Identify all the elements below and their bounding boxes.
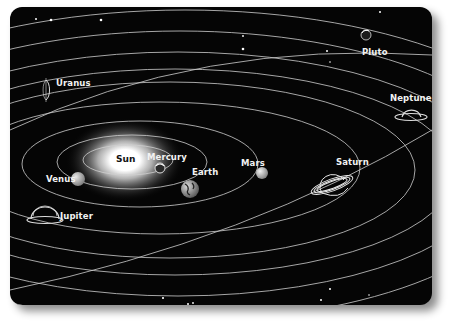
earth-icon (181, 180, 199, 198)
saturn-icon (309, 172, 354, 198)
venus-label: Venus (46, 174, 76, 184)
saturn-label: Saturn (336, 157, 369, 167)
mars-icon (256, 167, 268, 179)
earth-label: Earth (192, 167, 218, 177)
sun-label: Sun (116, 154, 136, 164)
mercury-icon (155, 163, 165, 173)
pluto-icon (361, 30, 371, 40)
neptune-label: Neptune (390, 93, 432, 103)
uranus-label: Uranus (56, 78, 91, 88)
jupiter-icon (27, 206, 63, 224)
jupiter-label: Jupiter (60, 211, 93, 221)
solar-system-diagram: Sun Mercury Venus Earth Mars Jupiter Sat… (10, 7, 432, 305)
uranus-icon (43, 78, 49, 102)
pluto-label: Pluto (362, 47, 388, 57)
mars-label: Mars (241, 158, 265, 168)
mercury-label: Mercury (147, 152, 187, 162)
neptune-icon (395, 110, 427, 120)
